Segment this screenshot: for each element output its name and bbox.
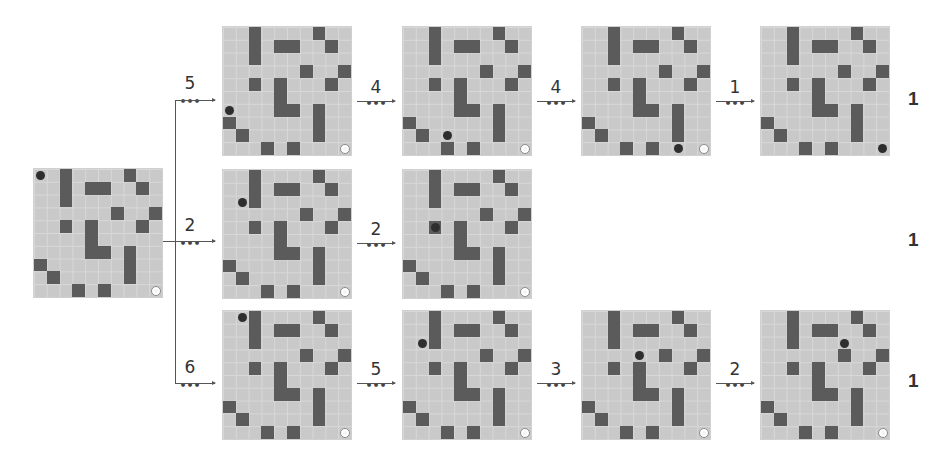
wall-cell [274,388,287,401]
wall-cell [249,324,262,337]
step-arrow [716,383,754,384]
wall-cell [403,401,416,414]
wall-cell [313,272,326,285]
wall-cell [812,388,825,401]
step-arrow [537,101,575,102]
wall-cell [838,349,851,362]
wall-cell [124,169,137,182]
wall-cell [608,78,621,91]
wall-cell [429,196,442,209]
wall-cell [493,129,506,142]
wall-cell [454,375,467,388]
agent-dot [840,339,849,348]
wall-cell [274,221,287,234]
wall-cell [633,40,646,53]
wall-cell [825,40,838,53]
arrow-branch-row3 [175,383,215,384]
wall-cell [787,362,800,375]
wall-cell [429,337,442,350]
grid-row1-step1 [223,27,351,155]
grid-row1-step2 [403,27,531,155]
wall-cell [467,388,480,401]
goal-star-icon [151,286,161,296]
wall-cell [287,142,300,155]
wall-cell [274,91,287,104]
wall-cell [467,104,480,117]
wall-cell [863,324,876,337]
wall-cell [799,426,812,439]
grid-row3-step3 [582,311,710,439]
wall-cell [851,388,864,401]
wall-cell [249,311,262,324]
wall-cell [454,78,467,91]
wall-cell [429,311,442,324]
wall-cell [851,311,864,324]
agent-dot [635,351,644,360]
grid-row2-step1 [223,170,351,298]
wall-cell [684,362,697,375]
wall-cell [518,208,531,221]
wall-cell [249,221,262,234]
wall-cell [313,260,326,273]
wall-cell [518,349,531,362]
wall-cell [261,285,274,298]
wall-cell [454,104,467,117]
wall-cell [287,104,300,117]
wall-cell [467,40,480,53]
wall-cell [863,362,876,375]
wall-cell [454,221,467,234]
step-label: 3 [544,359,568,379]
wall-cell [505,221,518,234]
wall-cell [812,375,825,388]
wall-cell [505,362,518,375]
wall-cell [672,413,685,426]
start-grid [34,169,162,297]
wall-cell [851,413,864,426]
wall-cell [416,413,429,426]
wall-cell [274,78,287,91]
wall-cell [85,220,98,233]
wall-cell [454,388,467,401]
goal-star-icon [520,428,530,438]
wall-cell [287,40,300,53]
goal-star-icon [340,428,350,438]
step-arrow [357,101,395,102]
wall-cell [98,182,111,195]
grid-row1-step3 [582,27,710,155]
wall-cell [313,129,326,142]
wall-cell [313,388,326,401]
wall-cell [838,65,851,78]
wall-cell [646,142,659,155]
wall-cell [441,426,454,439]
wall-cell [505,40,518,53]
wall-cell [454,234,467,247]
wall-cell [467,247,480,260]
wall-cell [672,104,685,117]
goal-star-icon [878,428,888,438]
wall-cell [787,53,800,66]
wall-cell [261,142,274,155]
wall-cell [672,117,685,130]
wall-cell [467,285,480,298]
wall-cell [287,285,300,298]
wall-cell [672,388,685,401]
wall-cell [274,375,287,388]
wall-cell [646,40,659,53]
wall-cell [787,40,800,53]
wall-cell [608,40,621,53]
wall-cell [787,78,800,91]
wall-cell [249,183,262,196]
wall-cell [403,117,416,130]
wall-cell [223,260,236,273]
wall-cell [236,272,249,285]
grid-row1-step4 [761,27,889,155]
wall-cell [124,271,137,284]
goal-star-icon [520,144,530,154]
result-row2: 1 [908,229,919,251]
wall-cell [480,349,493,362]
wall-cell [249,40,262,53]
wall-cell [249,337,262,350]
wall-cell [47,271,60,284]
wall-cell [236,129,249,142]
wall-cell [454,40,467,53]
